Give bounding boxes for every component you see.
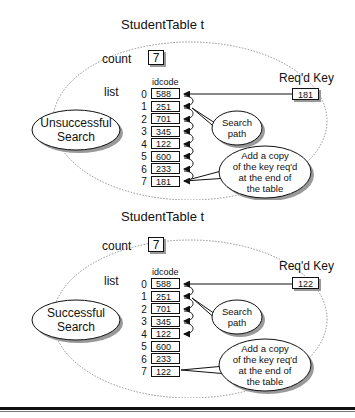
search-type-line: Successful [36,306,116,320]
idcode-cell: 122 [151,366,180,377]
add-copy-line: Add a copy [219,343,311,354]
row-index: 6 [140,354,148,365]
idcode-cell: 122 [151,328,180,339]
list-label: list [104,86,119,98]
row-index: 7 [140,366,148,377]
count-value: 7 [148,50,164,65]
idcode-cell: 588 [151,278,180,289]
search-type-line: Unsuccessful [36,116,116,130]
key-value: 122 [292,277,319,289]
add-copy-line: the table [219,183,311,194]
search-type-line: Search [36,320,116,334]
row-index: 3 [140,126,148,137]
unsuccessful-search-panel: StudentTable t count 7 idcode list Req'd… [0,0,355,195]
search-type-line: Search [36,130,116,144]
search-path-text: Search path [213,117,261,139]
add-copy-line: of the key req'd [219,161,311,172]
row-index: 4 [140,139,148,150]
row-index: 1 [140,101,148,112]
row-index: 2 [140,114,148,125]
search-path-line: Search [213,306,261,317]
count-label: count [102,53,131,65]
key-label: Req'd Key [279,72,334,84]
count-label: count [102,240,131,252]
bottom-divider-thin [0,411,355,412]
bottom-divider [0,407,355,410]
idcode-cell: 600 [151,151,180,162]
add-copy-line: at the end of [219,365,311,376]
search-path-text: Search path [213,306,261,328]
column-header: idcode [152,78,179,87]
object-title: StudentTable t [121,210,204,223]
idcode-cell: 251 [151,291,180,302]
object-title: StudentTable t [121,18,204,31]
add-copy-line: at the end of [219,172,311,183]
add-copy-text: Add a copy of the key req'd at the end o… [219,150,311,194]
idcode-cell: 701 [151,303,180,314]
key-value: 181 [292,88,319,100]
key-label: Req'd Key [279,260,334,272]
idcode-cell: 345 [151,126,180,137]
row-index: 1 [140,291,148,302]
row-index: 2 [140,304,148,315]
column-header: idcode [152,268,179,277]
add-copy-line: Add a copy [219,150,311,161]
row-index: 6 [140,164,148,175]
row-index: 5 [140,151,148,162]
row-index: 0 [140,89,148,100]
add-copy-line: the table [219,376,311,387]
search-path-line: path [213,128,261,139]
idcode-cell: 600 [151,341,180,352]
idcode-cell: 233 [151,353,180,364]
count-value: 7 [148,237,164,252]
row-index: 7 [140,176,148,187]
list-label: list [104,275,119,287]
idcode-cell: 701 [151,113,180,124]
row-index: 4 [140,329,148,340]
search-path-line: Search [213,117,261,128]
idcode-cell: 588 [151,88,180,99]
idcode-cell: 122 [151,138,180,149]
idcode-cell: 181 [151,176,180,187]
idcode-cell: 345 [151,316,180,327]
search-type-text: Unsuccessful Search [36,116,116,144]
row-index: 0 [140,279,148,290]
successful-search-panel: StudentTable t count 7 idcode list Req'd… [0,198,355,393]
search-path-line: path [213,317,261,328]
search-type-text: Successful Search [36,306,116,334]
idcode-cell: 233 [151,163,180,174]
add-copy-text: Add a copy of the key req'd at the end o… [219,343,311,387]
row-index: 5 [140,341,148,352]
row-index: 3 [140,316,148,327]
idcode-cell: 251 [151,101,180,112]
add-copy-line: of the key req'd [219,354,311,365]
